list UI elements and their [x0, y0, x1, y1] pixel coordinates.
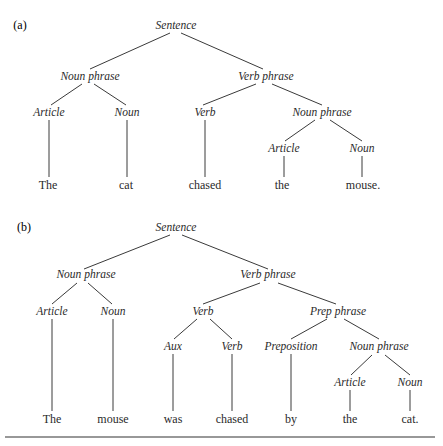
tree-leaf-word: cat — [119, 178, 134, 192]
panel-a-tree: (a) SentenceNoun phraseVerb phraseArticl… — [13, 18, 380, 192]
tree-edge — [182, 235, 268, 269]
tree-edge — [210, 319, 232, 339]
tree-node-label: Sentence — [156, 221, 197, 233]
tree-edge — [285, 120, 315, 141]
tree-edge — [385, 355, 410, 375]
tree-node-label: Article — [267, 142, 299, 154]
tree-leaf-word: the — [343, 412, 358, 426]
tree-edge — [51, 84, 82, 105]
tree-edges-a — [49, 33, 362, 177]
tree-node-label: Noun — [397, 376, 423, 388]
tree-node-label: Noun phrase — [59, 70, 119, 83]
tree-node-label: Noun phrase — [55, 268, 115, 281]
tree-node-label: Noun phrase — [291, 106, 351, 119]
tree-edge — [203, 283, 260, 304]
tree-node-label: Verb — [194, 106, 215, 118]
tree-edge — [278, 283, 336, 304]
tree-leaf-word: The — [43, 412, 62, 426]
tree-node-label: Noun — [100, 305, 126, 317]
tree-edge — [351, 355, 372, 375]
tree-edge — [181, 33, 263, 69]
tree-edge — [88, 283, 112, 304]
tree-edge — [174, 319, 197, 339]
tree-node-label: Sentence — [156, 19, 197, 31]
tree-node-label: Noun phrase — [348, 340, 408, 353]
tree-node-label: Verb — [221, 340, 242, 352]
tree-node-label: Article — [32, 106, 64, 118]
tree-leaf-word: mouse. — [346, 178, 380, 192]
panel-b-tree: (b) SentenceNoun phraseVerb phraseArticl… — [17, 220, 423, 426]
tree-edge — [330, 120, 362, 141]
tree-leaf-word: mouse — [97, 412, 128, 426]
tree-edge — [291, 319, 327, 339]
tree-leaf-word: by — [285, 412, 297, 426]
tree-node-label: Aux — [163, 340, 183, 352]
tree-edge — [52, 283, 77, 304]
panel-label-a: (a) — [13, 18, 26, 32]
tree-node-label: Verb phrase — [238, 70, 293, 83]
syntax-tree-diagram: (a) SentenceNoun phraseVerb phraseArticl… — [0, 0, 443, 446]
tree-node-label: Verb phrase — [240, 268, 295, 281]
tree-leaf-word: was — [164, 412, 183, 426]
tree-node-label: Preposition — [263, 340, 317, 353]
tree-leaf-word: chased — [189, 178, 222, 192]
panel-label-b: (b) — [17, 220, 31, 234]
tree-leaf-word: the — [275, 178, 290, 192]
tree-edge — [272, 84, 322, 105]
tree-node-label: Article — [333, 376, 365, 388]
tree-node-label: Verb — [192, 305, 213, 317]
tree-edge — [344, 319, 379, 339]
tree-edge — [203, 84, 256, 105]
tree-edge — [94, 84, 126, 105]
tree-node-label: Noun — [114, 106, 140, 118]
tree-nodes-a: SentenceNoun phraseVerb phraseArticleNou… — [32, 19, 380, 192]
tree-node-label: Article — [35, 305, 67, 317]
tree-node-label: Prep phrase — [309, 305, 366, 318]
tree-edge — [90, 33, 170, 69]
tree-edge — [84, 235, 170, 269]
tree-leaf-word: chased — [216, 412, 249, 426]
tree-leaf-word: The — [39, 178, 58, 192]
tree-node-label: Noun — [349, 142, 375, 154]
tree-leaf-word: cat. — [402, 412, 419, 426]
tree-nodes-b: SentenceNoun phraseVerb phraseArticleNou… — [35, 221, 422, 426]
